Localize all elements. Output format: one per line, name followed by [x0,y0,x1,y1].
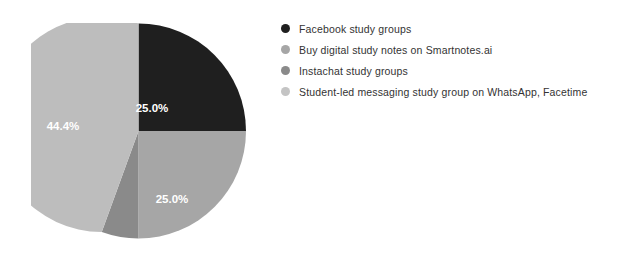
pie-slice-smartnotes[interactable] [139,131,247,239]
legend-label: Instachat study groups [299,65,408,77]
legend-item-instachat[interactable]: Instachat study groups [281,60,617,81]
legend-label: Buy digital study notes on Smartnotes.ai [299,44,492,56]
legend-swatch-icon [281,45,290,54]
legend-swatch-icon [281,87,290,96]
pie-svg: 25.0% 25.0% 44.4% [31,23,246,239]
pie-label-facebook: 25.0% [136,102,169,114]
pie-label-whatsapp: 44.4% [47,120,80,132]
legend-item-whatsapp[interactable]: Student-led messaging study group on Wha… [281,81,617,102]
pie-slice-facebook[interactable] [139,24,247,132]
legend-label: Facebook study groups [299,23,411,35]
pie-chart-figure: 25.0% 25.0% 44.4% Facebook study groups … [0,0,622,268]
legend-label: Student-led messaging study group on Wha… [299,86,587,98]
pie-label-smartnotes: 25.0% [156,193,189,205]
chart-legend: Facebook study groups Buy digital study … [281,18,617,102]
legend-item-facebook[interactable]: Facebook study groups [281,18,617,39]
legend-swatch-icon [281,24,290,33]
legend-item-smartnotes[interactable]: Buy digital study notes on Smartnotes.ai [281,39,617,60]
pie-chart-plot: 25.0% 25.0% 44.4% [31,23,246,239]
legend-swatch-icon [281,66,290,75]
